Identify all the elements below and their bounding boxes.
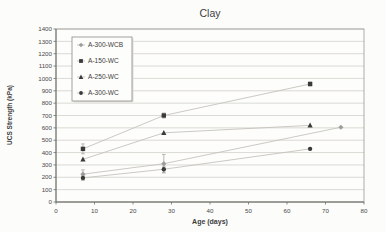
legend-label: A-300-WC bbox=[88, 89, 119, 96]
y-tick-label: 1200 bbox=[38, 50, 52, 57]
legend: A-300-WCBA-150-WCA-250-WCA-300-WC bbox=[72, 37, 134, 103]
y-tick-label: 1000 bbox=[38, 75, 52, 82]
x-tick-label: 50 bbox=[245, 207, 252, 214]
y-tick-label: 1100 bbox=[39, 62, 53, 69]
x-tick-label: 20 bbox=[130, 207, 137, 214]
y-tick-label: 600 bbox=[42, 124, 53, 131]
y-tick-label: 200 bbox=[42, 173, 53, 180]
y-axis-label: UCS Strength (kPa) bbox=[6, 85, 14, 145]
chart-svg: 0100200300400500600700800900100011001200… bbox=[0, 0, 386, 232]
legend-label: A-150-WC bbox=[88, 57, 119, 64]
y-tick-label: 1400 bbox=[38, 25, 52, 32]
x-axis-label: Age (days) bbox=[192, 218, 228, 226]
x-tick-label: 40 bbox=[207, 207, 214, 214]
x-tick-label: 70 bbox=[322, 207, 329, 214]
y-tick-label: 300 bbox=[42, 161, 53, 168]
x-tick-label: 80 bbox=[361, 207, 368, 214]
y-tick-label: 900 bbox=[42, 87, 53, 94]
data-point-square bbox=[162, 113, 166, 117]
legend-label: A-250-WC bbox=[88, 73, 119, 80]
data-point-circle bbox=[79, 91, 83, 95]
clay-ucs-chart-figure: 0100200300400500600700800900100011001200… bbox=[0, 0, 386, 232]
y-tick-label: 0 bbox=[49, 198, 53, 205]
data-point-circle bbox=[81, 176, 85, 180]
x-tick-label: 30 bbox=[168, 207, 175, 214]
y-tick-label: 400 bbox=[42, 149, 53, 156]
x-tick-label: 60 bbox=[284, 207, 291, 214]
y-tick-label: 100 bbox=[42, 186, 53, 193]
data-point-circle bbox=[308, 147, 312, 151]
legend-label: A-300-WCB bbox=[88, 41, 124, 48]
data-point-square bbox=[308, 82, 312, 86]
data-point-square bbox=[81, 147, 85, 151]
data-point-square bbox=[79, 59, 83, 63]
x-tick-label: 10 bbox=[91, 207, 98, 214]
y-tick-label: 1300 bbox=[38, 38, 52, 45]
x-tick-label: 0 bbox=[54, 207, 58, 214]
data-point-circle bbox=[162, 167, 166, 171]
chart-title: Clay bbox=[199, 7, 221, 19]
y-tick-label: 700 bbox=[42, 112, 53, 119]
y-tick-label: 500 bbox=[42, 136, 53, 143]
y-tick-label: 800 bbox=[42, 99, 53, 106]
